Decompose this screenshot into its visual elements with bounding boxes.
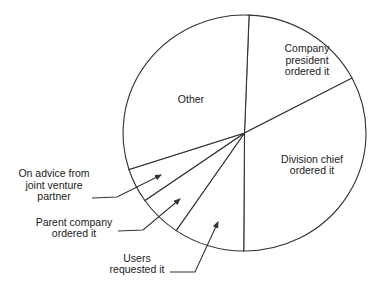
slice-label-line: ordered it	[290, 164, 334, 176]
slice-label-line: joint venture	[24, 179, 82, 191]
slice-label-line: Division chief	[281, 153, 343, 165]
slice-label-on-advice-from-joint-venture-partner: On advice fromjoint venturepartner	[18, 167, 89, 202]
slice-label-other: Other	[178, 93, 205, 105]
slice-label-line: partner	[37, 190, 71, 202]
slice-label-division-chief-ordered-it: Division chiefordered it	[281, 153, 343, 177]
slice-label-line: ordered it	[285, 65, 329, 77]
slice-label-line: president	[285, 54, 328, 66]
slice-label-line: ordered it	[52, 227, 96, 239]
slice-label-line: Company	[285, 42, 331, 54]
slice-label-line: Other	[178, 93, 205, 105]
slice-label-line: Users	[123, 252, 150, 264]
pie-chart: Companypresidentordered itDivision chief…	[0, 0, 380, 301]
slice-label-line: requested it	[110, 263, 165, 275]
slice-label-line: Parent company	[36, 216, 113, 228]
slice-label-parent-company-ordered-it: Parent companyordered it	[36, 216, 113, 240]
slice-label-users-requested-it: Usersrequested it	[110, 252, 165, 276]
slice-label-line: On advice from	[18, 167, 89, 179]
slice-label-company-president-ordered-it: Companypresidentordered it	[285, 42, 331, 77]
